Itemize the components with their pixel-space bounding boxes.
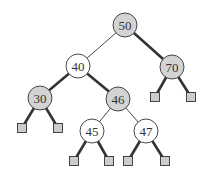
- tree-node-70: 70: [160, 55, 184, 79]
- node-label: 50: [119, 18, 132, 33]
- nil-leaf-icon: [18, 124, 27, 133]
- nil-leaf-icon: [124, 157, 133, 166]
- nil-leaf-icon: [151, 93, 160, 102]
- nil-leaf-icon: [105, 157, 114, 166]
- node-label: 45: [86, 124, 99, 139]
- red-black-tree-diagram: 50407030464547: [0, 0, 208, 183]
- leaf-edges: [22, 67, 191, 161]
- node-label: 30: [34, 91, 47, 106]
- tree-edges: [40, 25, 172, 131]
- node-label: 70: [166, 60, 179, 75]
- tree-node-30: 30: [28, 86, 52, 110]
- tree-node-46: 46: [106, 87, 130, 111]
- nil-leaf-icon: [70, 157, 79, 166]
- nil-leaf-icon: [54, 124, 63, 133]
- nil-leaf-icon: [187, 93, 196, 102]
- nil-leaf-icon: [161, 157, 170, 166]
- node-label: 40: [72, 59, 85, 74]
- tree-node-50: 50: [113, 13, 137, 37]
- node-label: 46: [112, 92, 126, 107]
- tree-nodes: 50407030464547: [28, 13, 184, 143]
- tree-node-45: 45: [80, 119, 104, 143]
- tree-node-47: 47: [134, 119, 158, 143]
- node-label: 47: [140, 124, 154, 139]
- tree-node-40: 40: [66, 54, 90, 78]
